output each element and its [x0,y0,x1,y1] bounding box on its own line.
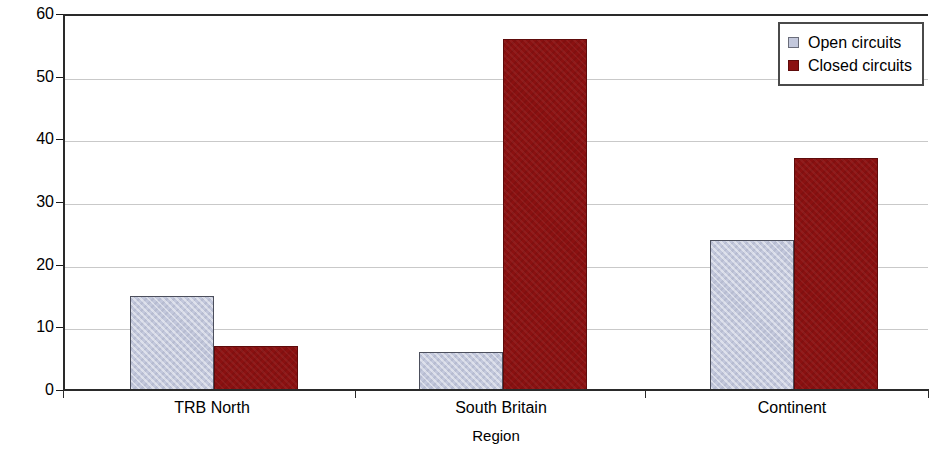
legend: Open circuits Closed circuits [778,22,924,86]
y-axis-tick-mark [56,390,63,391]
y-axis-tick-mark [56,77,63,78]
y-axis-tick-mark [56,265,63,266]
bar-continent-closed-circuits [794,158,878,390]
x-axis-category-label: TRB North [68,398,356,418]
y-axis-tick-label: 60 [22,6,54,22]
x-axis-category-label: Continent [648,398,930,418]
bar-chart-figure: Number of enclosures 0102030405060 Regio… [0,0,930,451]
y-axis-tick-mark [56,327,63,328]
legend-label-closed-circuits: Closed circuits [808,57,912,75]
x-axis-title: Region [63,427,929,445]
bar-continent-open-circuits [710,240,794,390]
x-axis-tick-mark [645,390,646,398]
y-axis-tick-label: 20 [22,257,54,273]
y-axis-tick-mark [56,202,63,203]
bar-trb-north-closed-circuits [214,346,298,390]
y-axis-tick-mark [56,14,63,15]
legend-item-open-circuits: Open circuits [788,31,912,54]
x-axis-tick-mark [928,390,929,398]
legend-label-open-circuits: Open circuits [808,34,901,52]
y-axis-tick-label: 50 [22,69,54,85]
y-axis-tick-label: 0 [22,382,54,398]
y-axis-tick-label: 30 [22,194,54,210]
y-axis-tick-labels: 0102030405060 [22,0,54,451]
x-axis-line [63,389,929,391]
bar-south-britain-closed-circuits [503,39,587,390]
x-axis-tick-mark [63,390,64,398]
x-axis-category-label: South Britain [357,398,645,418]
y-axis-tick-label: 40 [22,131,54,147]
legend-item-closed-circuits: Closed circuits [788,54,912,77]
bar-trb-north-open-circuits [130,296,214,390]
legend-swatch-open-circuits [788,37,799,48]
y-axis-tick-label: 10 [22,319,54,335]
bar-south-britain-open-circuits [419,352,503,390]
legend-swatch-closed-circuits [788,60,799,71]
y-axis-tick-mark [56,139,63,140]
x-axis-tick-mark [355,390,356,398]
gridline [65,141,928,142]
